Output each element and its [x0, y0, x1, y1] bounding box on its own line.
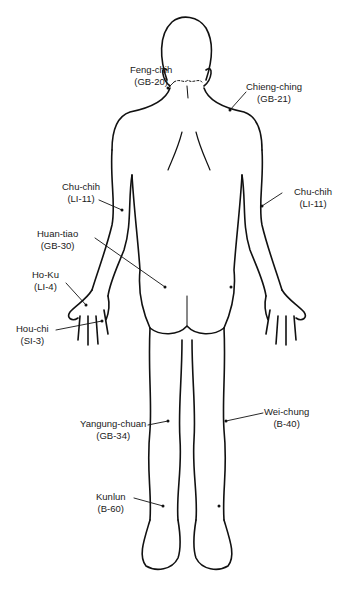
label-hou-chi: Hou-chi(SI-3): [16, 323, 49, 347]
left-hand: [69, 290, 109, 345]
label-chieng-ching: Chieng-ching(GB-21): [246, 81, 302, 105]
label-ho-ku: Ho-Ku(LI-4): [32, 269, 59, 293]
right-arm-outer: [261, 150, 282, 290]
leader-chieng-ching: [230, 92, 246, 110]
left-arm-inner: [108, 175, 132, 296]
right-hand: [265, 290, 305, 345]
torso-left: [132, 175, 150, 328]
right-leg-inner: [192, 340, 196, 520]
left-shoulder: [112, 88, 170, 150]
right-scapula: [196, 132, 210, 170]
left-leg-inner: [178, 340, 182, 520]
label-chu-chih-left: Chu-chih(LI-11): [62, 181, 100, 205]
leader-wei-chung: [226, 413, 263, 421]
left-leg-outer: [149, 328, 151, 520]
left-scapula: [168, 132, 182, 170]
leader-kunlun: [134, 498, 163, 506]
leader-ho-ku: [66, 283, 86, 305]
right-leg-outer: [223, 328, 225, 520]
right-arm-inner: [242, 175, 266, 296]
left-foot: [142, 520, 180, 569]
label-wei-chung: Wei-chung(B-40): [264, 406, 309, 430]
label-yangung-chuan: Yangung-chuan(GB-34): [80, 418, 146, 442]
leader-chu-chih-right: [262, 193, 282, 206]
label-huan-tiao: Huan-tiao(GB-30): [37, 228, 78, 252]
label-chu-chih-right: Chu-chih(LI-11): [294, 186, 332, 210]
buttocks: [150, 326, 224, 334]
label-feng-chih: Feng-chih(GB-20): [130, 64, 172, 88]
label-kunlun: Kunlun(B-60): [96, 491, 126, 515]
torso-right: [224, 175, 242, 328]
left-arm-outer: [92, 150, 113, 290]
right-foot: [194, 520, 232, 569]
leader-chu-chih-left: [99, 200, 122, 210]
leader-huan-tiao: [95, 238, 165, 287]
